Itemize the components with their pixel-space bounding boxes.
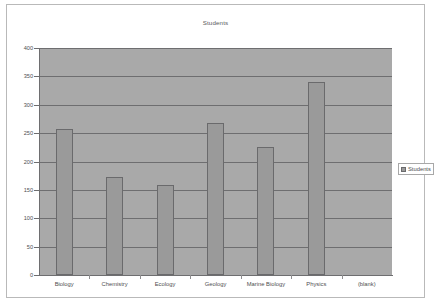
y-axis-tick-label: 400: [7, 45, 33, 51]
y-axis-tick-label: 200: [7, 159, 33, 165]
bar[interactable]: [308, 82, 325, 275]
x-axis-category-label: Physics: [306, 281, 326, 287]
y-axis-tick-mark: [34, 275, 39, 276]
bar[interactable]: [157, 185, 174, 275]
y-axis-tick-mark: [34, 162, 39, 163]
x-axis-tick-mark: [140, 275, 141, 279]
x-axis-tick-mark: [241, 275, 242, 279]
chart-legend[interactable]: Students: [398, 163, 434, 175]
y-axis-tick-label: 300: [7, 102, 33, 108]
y-axis-tick-label: 150: [7, 187, 33, 193]
y-axis-tick-label: 250: [7, 130, 33, 136]
x-axis-tick-mark: [190, 275, 191, 279]
y-axis-tick-mark: [34, 218, 39, 219]
x-axis-tick-mark: [342, 275, 343, 279]
bar[interactable]: [257, 147, 274, 275]
y-axis-tick-label: 50: [7, 244, 33, 250]
y-axis-tick-label: 0: [7, 272, 33, 278]
chart-title: Students: [7, 19, 424, 26]
y-axis-tick-mark: [34, 247, 39, 248]
bar[interactable]: [207, 123, 224, 275]
y-axis-tick-label: 350: [7, 73, 33, 79]
x-axis-category-label: Biology: [55, 281, 74, 287]
y-axis-tick-label: 100: [7, 215, 33, 221]
chart-frame: Students 050100150200250300350400 Biolog…: [6, 4, 425, 298]
y-axis-tick-mark: [34, 190, 39, 191]
gridline: [39, 105, 392, 106]
y-axis-line: [39, 48, 40, 276]
bar[interactable]: [106, 177, 123, 275]
x-axis-category-label: Marine Biology: [247, 281, 285, 287]
x-axis-line: [39, 275, 393, 276]
x-axis-category-label: Ecology: [155, 281, 176, 287]
x-axis-category-label: Chemistry: [102, 281, 128, 287]
legend-entry-label: Students: [408, 166, 431, 172]
y-axis-tick-mark: [34, 133, 39, 134]
x-axis-tick-mark: [291, 275, 292, 279]
x-axis-category-label: (blank): [358, 281, 376, 287]
y-axis-tick-mark: [34, 76, 39, 77]
x-axis-tick-mark: [89, 275, 90, 279]
legend-swatch-icon: [401, 167, 406, 172]
y-axis-tick-mark: [34, 48, 39, 49]
bar[interactable]: [56, 129, 73, 275]
gridline: [39, 48, 392, 49]
y-axis-tick-mark: [34, 105, 39, 106]
x-axis-category-label: Geology: [205, 281, 227, 287]
gridline: [39, 76, 392, 77]
